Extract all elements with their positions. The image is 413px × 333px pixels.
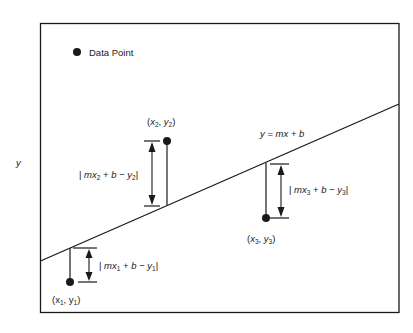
regression-line xyxy=(41,104,400,261)
legend: Data Point xyxy=(73,47,134,58)
data-point-legend-icon xyxy=(73,48,81,56)
line-equation-label: y = mx + b xyxy=(259,128,304,139)
data-point-2-group: | mx2 + b − y2| (x2, y2) xyxy=(79,116,175,206)
least-squares-diagram: y Data Point y = mx + b | mx1 + b − y1| … xyxy=(0,0,413,333)
data-point-2 xyxy=(163,137,171,145)
data-point-3 xyxy=(262,214,270,222)
residual-label-3: | mx3 + b − y3| xyxy=(289,184,348,196)
arrow-down-icon xyxy=(278,207,285,217)
data-point-3-group: | mx3 + b − y3| (x3, y3) xyxy=(247,163,348,245)
point-label-2: (x2, y2) xyxy=(147,116,175,128)
arrow-up-icon xyxy=(149,142,156,152)
arrow-up-icon xyxy=(278,165,285,175)
arrow-down-icon xyxy=(86,272,93,281)
residual-label-1: | mx1 + b − y1| xyxy=(99,260,158,272)
arrow-down-icon xyxy=(149,195,156,205)
data-point-1-group: | mx1 + b − y1| (x1, y1) xyxy=(52,248,158,306)
plot-frame xyxy=(41,24,400,313)
residual-label-2: | mx2 + b − y2| xyxy=(79,169,138,181)
point-label-1: (x1, y1) xyxy=(52,294,80,306)
arrow-up-icon xyxy=(86,249,93,258)
y-axis-label: y xyxy=(15,157,22,168)
data-point-1 xyxy=(66,278,74,286)
legend-label: Data Point xyxy=(89,47,134,58)
point-label-3: (x3, y3) xyxy=(247,233,275,245)
